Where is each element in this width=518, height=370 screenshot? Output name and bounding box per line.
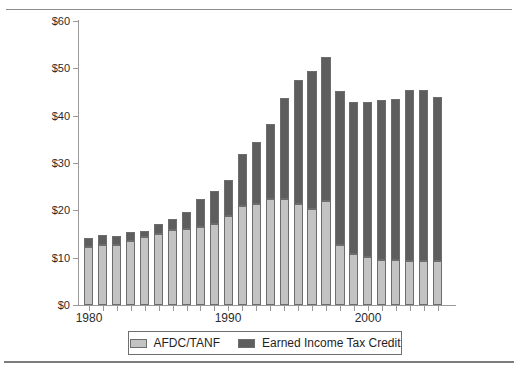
plot-area: [78, 21, 456, 305]
x-tick-1987: [187, 306, 188, 311]
bar-segment-afdc-1980: [84, 247, 93, 305]
x-tick-label-2000: 2000: [355, 311, 382, 325]
bar-segment-eitc-2005: [433, 97, 442, 261]
bar-segment-afdc-1986: [168, 230, 177, 305]
y-tick-label-30: $30: [26, 158, 70, 169]
bar-segment-eitc-2003: [405, 90, 414, 261]
x-tick-1995: [298, 306, 299, 311]
bar-segment-afdc-1995: [294, 204, 303, 305]
bar-segment-eitc-1995: [294, 80, 303, 204]
bar-segment-afdc-1984: [140, 237, 149, 305]
bar-segment-eitc-1981: [98, 235, 107, 244]
bar-segment-eitc-1988: [196, 199, 205, 227]
legend-label-afdc: AFDC/TANF: [154, 337, 220, 349]
bar-2002: [391, 99, 400, 305]
bottom-divider-rule: [4, 361, 514, 363]
y-tick-label-0: $0: [26, 300, 70, 311]
bar-segment-eitc-1993: [266, 124, 275, 198]
bar-1998: [335, 91, 344, 305]
bar-segment-eitc-2004: [419, 90, 428, 261]
bar-segment-eitc-2002: [391, 99, 400, 260]
y-tick-label-10: $10: [26, 253, 70, 264]
x-tick-1996: [312, 306, 313, 311]
x-tick-1984: [145, 306, 146, 311]
bar-segment-afdc-2004: [419, 261, 428, 305]
bar-1987: [182, 212, 191, 305]
bar-segment-afdc-1989: [210, 224, 219, 305]
bar-segment-eitc-1989: [210, 191, 219, 224]
bar-1980: [84, 238, 93, 305]
bar-1983: [126, 232, 135, 305]
bar-1994: [280, 98, 289, 305]
x-tick-2005: [438, 306, 439, 311]
bar-segment-afdc-1982: [112, 245, 121, 305]
bar-segment-afdc-2001: [377, 260, 386, 305]
x-tick-1994: [284, 306, 285, 311]
bar-segment-eitc-1987: [182, 212, 191, 229]
x-tick-1997: [326, 306, 327, 311]
legend-swatch-eitc: [238, 339, 255, 348]
legend-swatch-afdc: [130, 339, 147, 348]
bar-segment-afdc-2005: [433, 261, 442, 305]
bar-1999: [349, 102, 358, 305]
x-tick-1993: [270, 306, 271, 311]
bar-segment-eitc-2001: [377, 100, 386, 260]
x-tick-label-1990: 1990: [215, 311, 242, 325]
bar-segment-afdc-1991: [238, 206, 247, 305]
x-tick-1988: [200, 306, 201, 311]
bar-segment-afdc-1993: [266, 199, 275, 306]
top-divider-rule: [6, 9, 512, 10]
bar-segment-eitc-1994: [280, 98, 289, 199]
bar-segment-eitc-1998: [335, 91, 344, 246]
x-tick-1991: [242, 306, 243, 311]
bar-segment-eitc-1997: [321, 57, 330, 201]
x-tick-2001: [382, 306, 383, 311]
bar-1992: [252, 142, 261, 305]
bar-segment-eitc-1999: [349, 102, 358, 254]
bar-2001: [377, 100, 386, 305]
bar-1981: [98, 235, 107, 305]
bar-1997: [321, 57, 330, 305]
x-tick-1981: [103, 306, 104, 311]
bar-segment-afdc-2002: [391, 260, 400, 305]
x-tick-1986: [173, 306, 174, 311]
x-tick-1998: [340, 306, 341, 311]
bar-1996: [307, 71, 316, 305]
bar-segment-afdc-1981: [98, 245, 107, 305]
bar-segment-eitc-1985: [154, 224, 163, 234]
bar-segment-eitc-1996: [307, 71, 316, 209]
bar-segment-afdc-1990: [224, 216, 233, 305]
bar-1984: [140, 231, 149, 305]
bar-segment-afdc-1999: [349, 254, 358, 305]
legend-entry-afdc[interactable]: AFDC/TANF: [121, 337, 229, 349]
bar-segment-afdc-1994: [280, 199, 289, 305]
x-tick-2003: [410, 306, 411, 311]
bar-2000: [363, 102, 372, 305]
x-tick-1982: [117, 306, 118, 311]
x-tick-1992: [256, 306, 257, 311]
figure-stacked-bar-chart: $0$10$20$30$40$50$60 198019902000 AFDC/T…: [0, 0, 518, 370]
bar-segment-eitc-1984: [140, 231, 149, 238]
bar-1995: [294, 80, 303, 305]
bar-1990: [224, 180, 233, 305]
bar-2004: [419, 90, 428, 305]
bar-segment-eitc-1991: [238, 154, 247, 206]
legend-entry-eitc[interactable]: Earned Income Tax Credit: [229, 337, 410, 349]
x-tick-1985: [159, 306, 160, 311]
bar-segment-eitc-2000: [363, 102, 372, 257]
bar-segment-eitc-1983: [126, 232, 135, 241]
legend-label-eitc: Earned Income Tax Credit: [262, 337, 401, 349]
bar-segment-afdc-1992: [252, 204, 261, 305]
bar-1989: [210, 191, 219, 305]
y-tick-label-60: $60: [26, 16, 70, 27]
bar-1986: [168, 219, 177, 305]
bar-segment-afdc-1985: [154, 234, 163, 305]
bar-segment-afdc-1988: [196, 227, 205, 305]
bar-segment-eitc-1992: [252, 142, 261, 204]
bar-1991: [238, 154, 247, 305]
y-tick-label-40: $40: [26, 111, 70, 122]
x-tick-label-1980: 1980: [76, 311, 103, 325]
x-tick-2002: [396, 306, 397, 311]
x-tick-2004: [424, 306, 425, 311]
bar-segment-eitc-1980: [84, 238, 93, 247]
